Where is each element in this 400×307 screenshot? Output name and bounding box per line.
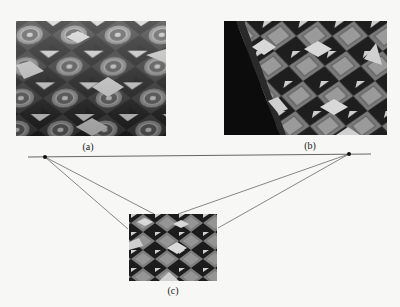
vanishing-point-right — [347, 152, 351, 156]
construction-line — [218, 154, 349, 228]
horizon-line — [28, 154, 371, 157]
construction-line — [178, 154, 349, 214]
construction-line — [45, 157, 154, 214]
perspective-construction — [0, 0, 400, 307]
vanishing-point-left — [43, 155, 47, 159]
construction-line — [45, 157, 128, 229]
